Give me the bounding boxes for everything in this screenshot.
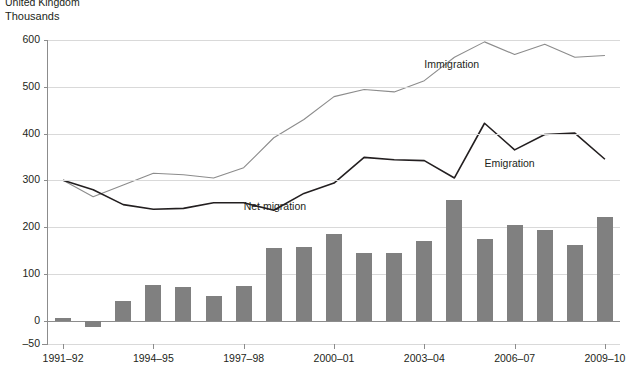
series-annotation-immigration: Immigration [424, 58, 479, 70]
chart-container: United Kingdom Thousands 600500400300200… [0, 0, 626, 375]
y-tick-mark [44, 344, 48, 345]
net-migration-bar[interactable] [386, 253, 402, 321]
y-axis-tick-label: 0 [0, 315, 40, 326]
plot-area [48, 40, 620, 344]
y-tick-mark [44, 40, 48, 41]
x-tick-mark [605, 344, 606, 349]
net-migration-bar[interactable] [567, 245, 583, 321]
net-migration-bar[interactable] [296, 247, 312, 321]
net-migration-bar[interactable] [55, 318, 71, 320]
y-axis-tick-label: 400 [0, 128, 40, 139]
x-axis-tick-label: 2006–07 [494, 352, 535, 364]
net-migration-bar[interactable] [597, 217, 613, 321]
y-axis-tick-label: 100 [0, 268, 40, 279]
x-axis-tick-label: 1991–92 [43, 352, 84, 364]
chart-unit-label: Thousands [5, 10, 59, 22]
net-migration-bar[interactable] [85, 321, 101, 327]
y-tick-mark [44, 134, 48, 135]
net-migration-bar[interactable] [326, 234, 342, 321]
net-migration-bar[interactable] [356, 253, 372, 321]
x-axis-tick-label: 1997–98 [223, 352, 264, 364]
y-tick-mark [44, 274, 48, 275]
gridline [48, 134, 620, 135]
net-migration-bar[interactable] [416, 241, 432, 321]
net-migration-bar[interactable] [537, 230, 553, 320]
chart-supertitle: United Kingdom [5, 0, 80, 8]
net-migration-bar[interactable] [507, 225, 523, 320]
x-tick-mark [63, 344, 64, 349]
x-tick-mark [515, 344, 516, 349]
y-axis-tick-label: 600 [0, 34, 40, 45]
x-axis-tick-label: 2009–10 [584, 352, 625, 364]
series-annotation-net-migration: Net migration [244, 200, 306, 212]
gridline [48, 227, 620, 228]
zero-line [48, 321, 620, 322]
x-axis-tick-label: 2000–01 [314, 352, 355, 364]
net-migration-bar[interactable] [236, 286, 252, 321]
y-axis-tick-label: 500 [0, 81, 40, 92]
net-migration-bar[interactable] [446, 200, 462, 321]
gridline [48, 87, 620, 88]
gridline [48, 40, 620, 41]
y-axis-tick-label: 300 [0, 174, 40, 185]
x-tick-mark [334, 344, 335, 349]
net-migration-bar[interactable] [175, 287, 191, 321]
gridline [48, 180, 620, 181]
net-migration-bar[interactable] [266, 248, 282, 320]
x-axis-tick-label: 2003–04 [404, 352, 445, 364]
y-tick-mark [44, 227, 48, 228]
immigration-line [63, 42, 605, 197]
y-tick-mark [44, 87, 48, 88]
net-migration-bar[interactable] [477, 239, 493, 320]
y-tick-mark [44, 321, 48, 322]
net-migration-bar[interactable] [115, 301, 131, 321]
y-axis-tick-label: 200 [0, 221, 40, 232]
net-migration-bar[interactable] [206, 296, 222, 321]
series-annotation-emigration: Emigration [485, 157, 535, 169]
x-tick-mark [424, 344, 425, 349]
y-tick-mark [44, 180, 48, 181]
x-axis-tick-label: 1994–95 [133, 352, 174, 364]
y-axis-tick-label: –50 [0, 338, 40, 349]
x-tick-mark [244, 344, 245, 349]
net-migration-bar[interactable] [145, 285, 161, 321]
x-tick-mark [153, 344, 154, 349]
